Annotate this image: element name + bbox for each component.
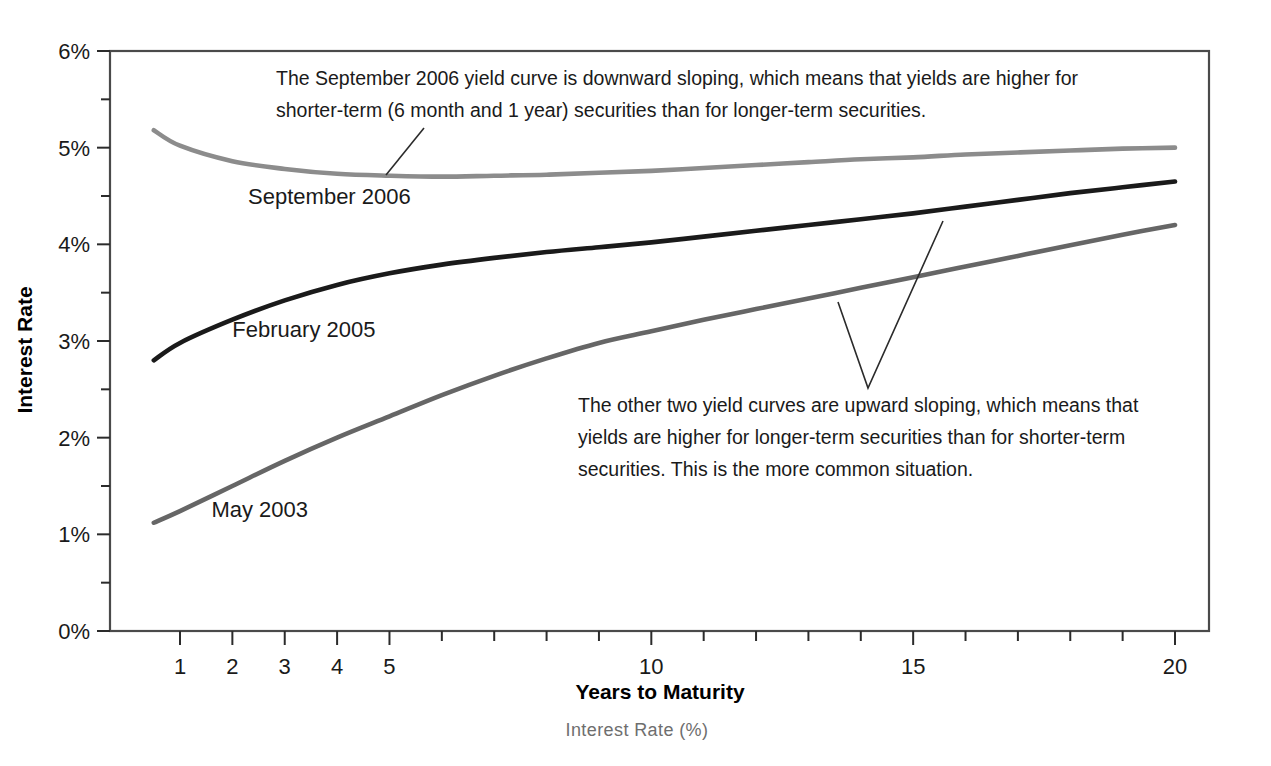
annotation-upward: The other two yield curves are upward sl… (578, 394, 1139, 480)
leader-line-upward (838, 221, 943, 388)
y-axis-title: Interest Rate (13, 286, 36, 413)
y-tick-label: 1% (58, 522, 90, 547)
x-tick-label: 5 (383, 654, 395, 679)
annotation-upward-line-3: securities. This is the more common situ… (578, 458, 973, 480)
x-axis-title: Years to Maturity (575, 680, 745, 703)
annotation-september-line-2: shorter-term (6 month and 1 year) securi… (276, 99, 926, 121)
x-tick-label: 4 (331, 654, 343, 679)
y-tick-label: 2% (58, 426, 90, 451)
annotation-upward-line-1: The other two yield curves are upward sl… (578, 394, 1139, 416)
series-curve-0 (154, 130, 1175, 176)
annotation-september: The September 2006 yield curve is downwa… (276, 67, 1079, 121)
x-tick-label: 10 (639, 654, 663, 679)
x-tick-label: 1 (174, 654, 186, 679)
series-label-2: May 2003 (211, 497, 308, 522)
x-axis-tick-labels: 12345101520 (174, 654, 1187, 679)
y-axis-ticks (97, 51, 110, 631)
x-tick-label: 2 (226, 654, 238, 679)
yield-curve-chart: 0%1%2%3%4%5%6% 12345101520 September 200… (0, 0, 1271, 766)
y-tick-label: 0% (58, 619, 90, 644)
x-axis-ticks (180, 631, 1175, 645)
series-inline-labels: September 2006February 2005May 2003 (211, 184, 410, 522)
annotation-upward-line-2: yields are higher for longer-term securi… (578, 426, 1125, 448)
series-label-1: February 2005 (232, 317, 375, 342)
y-tick-label: 4% (58, 232, 90, 257)
y-axis-tick-labels: 0%1%2%3%4%5%6% (58, 39, 90, 644)
leader-line-september (386, 128, 424, 175)
x-tick-label: 20 (1163, 654, 1187, 679)
y-tick-label: 3% (58, 329, 90, 354)
annotation-september-line-1: The September 2006 yield curve is downwa… (276, 67, 1079, 89)
x-tick-label: 3 (279, 654, 291, 679)
x-tick-label: 15 (901, 654, 925, 679)
y-tick-label: 5% (58, 136, 90, 161)
series-label-0: September 2006 (248, 184, 411, 209)
chart-figure: 0%1%2%3%4%5%6% 12345101520 September 200… (0, 0, 1271, 766)
figure-caption: Interest Rate (%) (566, 720, 709, 740)
y-tick-label: 6% (58, 39, 90, 64)
